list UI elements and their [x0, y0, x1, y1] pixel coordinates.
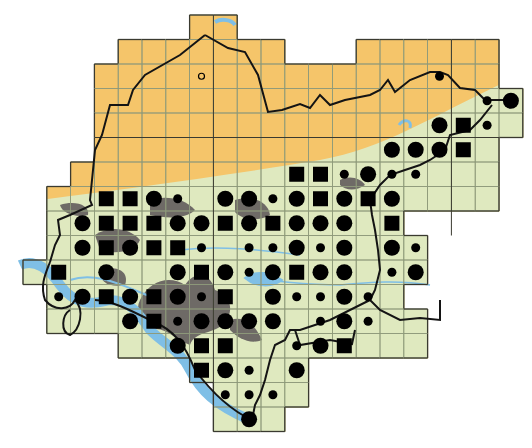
large-circle-marker	[313, 215, 329, 231]
large-circle-marker	[336, 289, 352, 305]
large-circle-marker	[122, 289, 138, 305]
large-circle-marker	[241, 313, 257, 329]
small-circle-marker	[245, 390, 254, 399]
small-circle-marker	[173, 317, 182, 326]
small-circle-marker	[340, 170, 349, 179]
large-circle-marker	[289, 191, 305, 207]
large-circle-marker	[384, 240, 400, 256]
square-marker	[361, 191, 376, 206]
small-circle-marker	[245, 243, 254, 252]
square-marker	[313, 191, 328, 206]
large-circle-marker	[170, 264, 186, 280]
square-marker	[194, 338, 209, 353]
square-marker	[99, 240, 114, 255]
square-marker	[146, 314, 161, 329]
large-circle-marker	[408, 142, 424, 158]
large-circle-marker	[217, 264, 233, 280]
square-marker	[99, 289, 114, 304]
small-circle-marker	[387, 170, 396, 179]
square-marker	[289, 265, 304, 280]
large-circle-marker	[289, 215, 305, 231]
small-circle-marker	[221, 390, 230, 399]
small-circle-marker	[292, 341, 301, 350]
small-circle-marker	[316, 243, 325, 252]
large-circle-marker	[75, 240, 91, 256]
large-circle-marker	[98, 264, 114, 280]
square-marker	[218, 338, 233, 353]
square-marker	[384, 216, 399, 231]
large-circle-marker	[146, 191, 162, 207]
square-marker	[194, 265, 209, 280]
square-marker	[123, 191, 138, 206]
distribution-map	[0, 0, 532, 448]
large-circle-marker	[336, 313, 352, 329]
large-circle-marker	[217, 313, 233, 329]
large-circle-marker	[194, 313, 210, 329]
square-marker	[337, 338, 352, 353]
square-marker	[265, 216, 280, 231]
small-circle-marker	[173, 194, 182, 203]
square-marker	[456, 142, 471, 157]
large-circle-marker	[336, 191, 352, 207]
square-marker	[123, 216, 138, 231]
small-circle-marker	[292, 292, 301, 301]
small-circle-marker	[435, 72, 444, 81]
square-marker	[146, 216, 161, 231]
large-circle-marker	[313, 338, 329, 354]
small-circle-marker	[316, 317, 325, 326]
large-circle-marker	[170, 289, 186, 305]
large-circle-marker	[217, 191, 233, 207]
large-circle-marker	[336, 240, 352, 256]
large-circle-marker	[313, 264, 329, 280]
large-circle-marker	[432, 117, 448, 133]
small-circle-marker	[316, 292, 325, 301]
large-circle-marker	[408, 264, 424, 280]
square-marker	[99, 191, 114, 206]
large-circle-marker	[360, 166, 376, 182]
large-circle-marker	[241, 191, 257, 207]
small-circle-marker	[197, 243, 206, 252]
large-circle-marker	[503, 93, 519, 109]
large-circle-marker	[241, 215, 257, 231]
large-circle-marker	[75, 289, 91, 305]
large-circle-marker	[122, 313, 138, 329]
small-circle-marker	[245, 268, 254, 277]
small-circle-marker	[483, 96, 492, 105]
small-circle-marker	[54, 292, 63, 301]
square-marker	[146, 240, 161, 255]
small-circle-marker	[364, 292, 373, 301]
large-circle-marker	[336, 215, 352, 231]
square-marker	[218, 216, 233, 231]
large-circle-marker	[265, 264, 281, 280]
small-circle-marker	[364, 317, 373, 326]
square-marker	[218, 289, 233, 304]
large-circle-marker	[289, 362, 305, 378]
large-circle-marker	[75, 215, 91, 231]
square-marker	[289, 167, 304, 182]
square-marker	[170, 240, 185, 255]
large-circle-marker	[384, 142, 400, 158]
large-circle-marker	[265, 289, 281, 305]
large-circle-marker	[170, 338, 186, 354]
small-circle-marker	[268, 390, 277, 399]
square-marker	[313, 167, 328, 182]
small-circle-marker	[411, 170, 420, 179]
large-circle-marker	[194, 215, 210, 231]
large-circle-marker	[336, 264, 352, 280]
square-marker	[146, 289, 161, 304]
small-circle-marker	[411, 243, 420, 252]
small-circle-marker	[197, 292, 206, 301]
square-marker	[194, 363, 209, 378]
small-circle-marker	[268, 243, 277, 252]
small-circle-marker	[483, 121, 492, 130]
square-marker	[51, 265, 66, 280]
square-marker	[99, 216, 114, 231]
large-circle-marker	[241, 411, 257, 427]
large-circle-marker	[217, 362, 233, 378]
large-circle-marker	[170, 215, 186, 231]
small-circle-marker	[387, 268, 396, 277]
large-circle-marker	[432, 142, 448, 158]
large-circle-marker	[122, 240, 138, 256]
small-circle-marker	[245, 366, 254, 375]
small-circle-marker	[268, 194, 277, 203]
